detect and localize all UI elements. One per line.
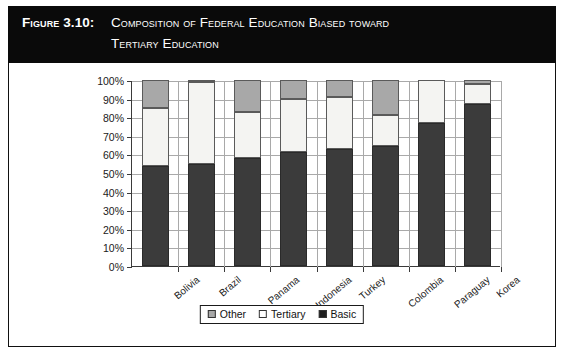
chart-legend: Other Tertiary Basic bbox=[200, 305, 364, 324]
y-axis-tick-label: 80% bbox=[103, 112, 124, 124]
y-tick-mark bbox=[127, 155, 132, 156]
x-tick-mark bbox=[501, 267, 502, 272]
bar-segment-tertiary[interactable] bbox=[188, 82, 215, 164]
y-axis-tick-label: 10% bbox=[103, 242, 124, 254]
stacked-bar[interactable] bbox=[418, 80, 445, 266]
legend-item-basic: Basic bbox=[319, 308, 357, 320]
bar-segment-basic[interactable] bbox=[418, 123, 445, 266]
y-tick-mark bbox=[127, 267, 132, 268]
x-axis-category-label: Brazil bbox=[217, 274, 243, 299]
y-tick-mark bbox=[127, 81, 132, 82]
y-tick-mark bbox=[127, 137, 132, 138]
y-axis-tick-label: 90% bbox=[103, 94, 124, 106]
x-gridline bbox=[270, 81, 271, 267]
x-axis-category-label: Bolivia bbox=[172, 274, 202, 301]
bar-segment-tertiary[interactable] bbox=[464, 84, 491, 104]
bar-segment-tertiary[interactable] bbox=[326, 97, 353, 149]
stacked-bar[interactable] bbox=[234, 80, 261, 266]
x-axis-category-label: Panama bbox=[266, 274, 302, 306]
x-gridline bbox=[409, 81, 410, 267]
bar-segment-basic[interactable] bbox=[142, 166, 169, 266]
y-tick-mark bbox=[127, 174, 132, 175]
bar-segment-other[interactable] bbox=[372, 80, 399, 115]
bar-segment-other[interactable] bbox=[188, 80, 215, 82]
bar-segment-basic[interactable] bbox=[280, 152, 307, 266]
x-tick-mark bbox=[455, 267, 456, 272]
stacked-bar[interactable] bbox=[188, 80, 215, 266]
bar-segment-basic[interactable] bbox=[372, 146, 399, 266]
x-axis-category-label: Korea bbox=[494, 274, 522, 300]
stacked-bar[interactable] bbox=[372, 80, 399, 266]
x-tick-mark bbox=[224, 267, 225, 272]
x-gridline bbox=[363, 81, 364, 267]
y-axis-tick-label: 70% bbox=[103, 131, 124, 143]
black-swatch-icon bbox=[319, 310, 327, 318]
legend-item-tertiary: Tertiary bbox=[259, 308, 305, 320]
y-axis-tick-label: 50% bbox=[103, 168, 124, 180]
stacked-bar[interactable] bbox=[142, 80, 169, 266]
figure-title-line-2: Tertiary Education bbox=[111, 36, 219, 51]
bar-segment-other[interactable] bbox=[142, 80, 169, 108]
stacked-bar[interactable] bbox=[464, 80, 491, 266]
bar-segment-basic[interactable] bbox=[326, 149, 353, 266]
y-axis-tick-label: 0% bbox=[109, 261, 124, 273]
bar-segment-basic[interactable] bbox=[188, 164, 215, 266]
legend-item-other: Other bbox=[208, 308, 246, 320]
y-tick-mark bbox=[127, 193, 132, 194]
bar-segment-basic[interactable] bbox=[464, 104, 491, 266]
bar-segment-tertiary[interactable] bbox=[142, 108, 169, 166]
legend-label-other: Other bbox=[220, 308, 246, 320]
legend-label-basic: Basic bbox=[331, 308, 357, 320]
bar-segment-other[interactable] bbox=[326, 80, 353, 97]
x-tick-mark bbox=[363, 267, 364, 272]
y-axis-tick-label: 100% bbox=[97, 75, 124, 87]
x-gridline bbox=[224, 81, 225, 267]
figure-title-line-1: Composition of Federal Education Biased … bbox=[111, 15, 389, 30]
y-tick-mark bbox=[127, 100, 132, 101]
x-tick-mark bbox=[178, 267, 179, 272]
x-gridline bbox=[455, 81, 456, 267]
y-tick-mark bbox=[127, 118, 132, 119]
figure-title-banner: Figure 3.10: Composition of Federal Educ… bbox=[8, 6, 556, 63]
y-tick-mark bbox=[127, 230, 132, 231]
x-tick-mark bbox=[409, 267, 410, 272]
x-gridline bbox=[178, 81, 179, 267]
stacked-bar[interactable] bbox=[280, 80, 307, 266]
bar-segment-tertiary[interactable] bbox=[234, 112, 261, 159]
x-tick-mark bbox=[270, 267, 271, 272]
stacked-bar[interactable] bbox=[326, 80, 353, 266]
chart-panel: 100%90%80%70%60%50%40%30%20%10%0%Bolivia… bbox=[8, 63, 556, 347]
bar-segment-other[interactable] bbox=[464, 80, 491, 84]
x-gridline bbox=[501, 81, 502, 267]
y-axis-tick-label: 40% bbox=[103, 187, 124, 199]
y-tick-mark bbox=[127, 211, 132, 212]
y-axis-tick-label: 60% bbox=[103, 149, 124, 161]
x-gridline bbox=[317, 81, 318, 267]
bar-segment-tertiary[interactable] bbox=[280, 99, 307, 152]
white-swatch-icon bbox=[259, 310, 267, 318]
x-tick-mark bbox=[317, 267, 318, 272]
y-axis-tick-label: 20% bbox=[103, 224, 124, 236]
bar-segment-tertiary[interactable] bbox=[372, 115, 399, 146]
bar-segment-other[interactable] bbox=[280, 80, 307, 99]
x-axis-category-label: Paraguay bbox=[452, 274, 492, 310]
x-axis-category-label: Turkey bbox=[357, 274, 387, 302]
figure-container: Figure 3.10: Composition of Federal Educ… bbox=[8, 6, 556, 347]
bar-segment-tertiary[interactable] bbox=[418, 80, 445, 123]
legend-label-tertiary: Tertiary bbox=[271, 308, 305, 320]
x-axis-category-label: Colombia bbox=[406, 274, 445, 310]
y-axis-tick-label: 30% bbox=[103, 205, 124, 217]
gray-swatch-icon bbox=[208, 310, 216, 318]
y-tick-mark bbox=[127, 248, 132, 249]
plot-area: 100%90%80%70%60%50%40%30%20%10%0%Bolivia… bbox=[131, 81, 500, 267]
bar-segment-basic[interactable] bbox=[234, 158, 261, 266]
figure-number-label: Figure 3.10: bbox=[22, 15, 94, 30]
bar-segment-other[interactable] bbox=[234, 80, 261, 112]
